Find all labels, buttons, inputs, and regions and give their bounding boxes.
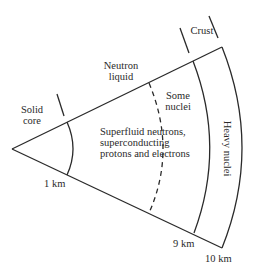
radius-9km-label: 9 km	[173, 238, 194, 249]
some-nuclei-label-line2: nuclei	[160, 101, 196, 112]
heavy-nuclei-label-text: Heavy nuclei	[222, 121, 233, 177]
radius-1km-label: 1 km	[44, 178, 65, 189]
lower-edge-line	[12, 149, 222, 248]
crust-label-text: Crust	[191, 25, 214, 36]
solid-core-tick	[57, 94, 64, 116]
superfluid-label-line3: protons and electrons	[100, 148, 190, 159]
neutron-liquid-label-line2: liquid	[96, 71, 146, 82]
superfluid-label-line2: superconducting	[100, 137, 190, 148]
solid-core-label-line2: core	[14, 115, 50, 126]
radius-1km-text: 1 km	[44, 178, 65, 189]
heavy-nuclei-label: Heavy nuclei	[222, 114, 233, 184]
neutron-liquid-label: Neutron liquid	[96, 60, 146, 82]
core-boundary-arc	[67, 122, 73, 175]
some-nuclei-label-line1: Some	[160, 90, 196, 101]
crust-boundary-arc	[193, 61, 210, 233]
radius-10km-label: 10 km	[205, 253, 232, 264]
crust-label: Crust	[184, 25, 220, 36]
radius-10km-text: 10 km	[205, 253, 232, 264]
some-nuclei-label: Some nuclei	[160, 90, 196, 112]
superfluid-label: Superfluid neutrons, superconducting pro…	[100, 126, 190, 159]
solid-core-label: Solid core	[14, 104, 50, 126]
neutron-liquid-label-line1: Neutron	[96, 60, 146, 71]
superfluid-label-line1: Superfluid neutrons,	[100, 126, 190, 137]
radius-9km-text: 9 km	[173, 238, 194, 249]
solid-core-label-line1: Solid	[14, 104, 50, 115]
